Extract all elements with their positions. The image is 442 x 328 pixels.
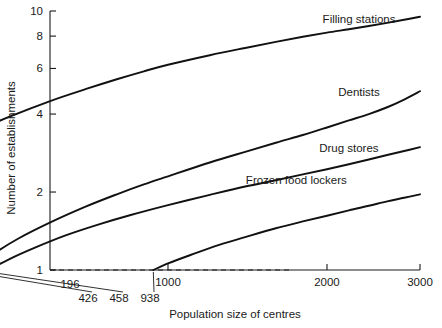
y-tick-label: 8 (37, 30, 43, 42)
threshold-value-label: 458 (109, 292, 128, 304)
series-annotation-label: Dentists (338, 86, 380, 98)
chart-figure: 1246810 196100020003000 196426458938 Fil… (0, 0, 442, 328)
threshold-leader-line (153, 272, 154, 292)
series-curve (0, 91, 420, 270)
x-axis-title: Population size of centres (169, 308, 301, 320)
x-tick-label: 2000 (314, 276, 340, 288)
threshold-value-label: 938 (140, 292, 159, 304)
y-tick-label: 1 (37, 264, 43, 276)
series-annotation-label: Drug stores (319, 142, 379, 154)
y-tick-label: 2 (37, 186, 43, 198)
y-tick-label: 6 (37, 62, 43, 74)
threshold-value-label: 426 (78, 292, 97, 304)
x-tick-label: 1000 (155, 276, 181, 288)
series-annotation-label: Frozen food lockers (246, 174, 347, 186)
y-tick-label: 4 (37, 108, 44, 120)
y-axis-ticks: 1246810 (30, 5, 56, 276)
y-axis-title: Number of establishments (5, 81, 17, 215)
y-tick-label: 10 (30, 5, 43, 17)
series-annotation-label: Filling stations (323, 13, 396, 25)
series-curve (153, 194, 420, 270)
threshold-population-chart: 1246810 196100020003000 196426458938 Fil… (0, 0, 442, 328)
threshold-guides: 196426458938 (0, 270, 293, 304)
x-tick-label: 3000 (407, 276, 433, 288)
series-labels: Filling stationsDentistsDrug storesFroze… (246, 13, 396, 186)
